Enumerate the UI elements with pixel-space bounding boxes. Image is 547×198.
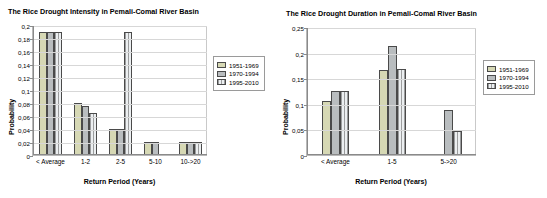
legend-swatch — [487, 66, 496, 72]
legend-swatch — [217, 62, 226, 68]
bar — [89, 113, 97, 155]
bar — [331, 91, 340, 155]
bar — [109, 129, 117, 155]
bar-group-duration — [307, 28, 476, 155]
bar — [444, 110, 453, 155]
y-axis-label-intensity: Probability — [8, 99, 15, 135]
legend-intensity: 1951-19691970-19941995-2010 — [213, 56, 265, 91]
y-axis-tick: 0,06 — [18, 114, 30, 121]
y-axis-tick: 0,12 — [18, 75, 30, 82]
y-axis-label-duration: Probability — [282, 99, 289, 135]
y-axis-tick: 0,2 — [295, 50, 304, 57]
gridline — [33, 143, 207, 144]
legend-item: 1970-1994 — [217, 70, 261, 77]
gridline — [307, 28, 476, 29]
legend-item: 1970-1994 — [487, 74, 531, 81]
x-axis-tick: < Average — [36, 158, 65, 165]
bar — [379, 70, 388, 156]
legend-swatch — [217, 71, 226, 77]
legend-duration: 1951-19691970-19941995-2010 — [483, 60, 535, 95]
bar — [340, 91, 349, 155]
y-axis-tick-mark — [30, 156, 33, 157]
bar — [47, 32, 55, 156]
chart-title-intensity: The Rice Drought Intensity in Pemali-Com… — [8, 7, 199, 16]
legend-item: 1995-2010 — [487, 83, 531, 90]
legend-label: 1970-1994 — [499, 74, 529, 81]
legend-label: 1970-1994 — [229, 70, 259, 77]
gridline — [33, 117, 207, 118]
y-axis-tick: 0,1 — [295, 101, 304, 108]
x-axis-tick: 5-10 — [149, 158, 162, 165]
y-axis-tick-mark — [304, 156, 307, 157]
legend-label: 1951-1969 — [229, 62, 259, 69]
x-axis-tick: 1-2 — [81, 158, 90, 165]
x-axis-line — [307, 154, 476, 155]
bar — [74, 103, 82, 155]
chart-title-duration: The Rice Drought Duration in Pemali-Coma… — [286, 9, 477, 18]
legend-swatch — [487, 83, 496, 89]
x-axis-tick: < Average — [321, 158, 350, 165]
gridline — [307, 79, 476, 80]
y-axis-tick: 0,18 — [18, 36, 30, 43]
legend-item: 1995-2010 — [217, 79, 261, 86]
bar — [117, 129, 125, 155]
y-axis-tick: 0,08 — [18, 101, 30, 108]
gridline — [33, 26, 207, 27]
legend-swatch — [487, 75, 496, 81]
gridline — [307, 130, 476, 131]
gridline — [307, 105, 476, 106]
gridline — [307, 54, 476, 55]
y-axis-line — [307, 28, 308, 155]
y-axis-tick: 0,1 — [21, 88, 30, 95]
legend-label: 1951-1969 — [499, 66, 529, 73]
y-axis-tick: 0,15 — [292, 76, 304, 83]
x-axis-tick: 1-5 — [387, 158, 396, 165]
y-axis-tick: 0,05 — [292, 127, 304, 134]
bar — [124, 32, 132, 156]
chart-panel-duration: The Rice Drought Duration in Pemali-Coma… — [274, 0, 547, 198]
gridline — [33, 91, 207, 92]
legend-label: 1995-2010 — [499, 83, 529, 90]
legend-item: 1951-1969 — [217, 62, 261, 69]
bar — [388, 46, 397, 155]
bar — [397, 69, 406, 155]
gridline — [33, 39, 207, 40]
y-axis-tick: 0,02 — [18, 140, 30, 147]
bar — [453, 131, 462, 155]
x-axis-tick: 10->20 — [180, 158, 200, 165]
gridline — [33, 78, 207, 79]
x-axis-tick: 5->20 — [440, 158, 457, 165]
chart-panel-intensity: The Rice Drought Intensity in Pemali-Com… — [0, 0, 272, 198]
y-axis-tick: 0,04 — [18, 127, 30, 134]
y-axis-tick: 0,25 — [292, 25, 304, 32]
x-axis-line — [33, 154, 207, 155]
legend-item: 1951-1969 — [487, 66, 531, 73]
y-axis-tick: 0,14 — [18, 62, 30, 69]
plot-area-duration: 0,250,20,150,10,050< Average1-55->20 — [306, 28, 476, 156]
bar — [322, 101, 331, 155]
gridline — [33, 104, 207, 105]
figure-container: The Rice Drought Intensity in Pemali-Com… — [0, 0, 547, 198]
x-axis-label-intensity: Return Period (Years) — [32, 178, 207, 185]
gridline — [33, 65, 207, 66]
legend-swatch — [217, 79, 226, 85]
y-axis-line — [33, 26, 34, 155]
plot-area-intensity: 0,20,180,160,140,120,10,080,060,040,020<… — [32, 26, 207, 156]
y-axis-tick: 0,2 — [21, 23, 30, 30]
x-axis-tick: 2-5 — [116, 158, 125, 165]
legend-label: 1995-2010 — [229, 79, 259, 86]
bar — [39, 32, 47, 156]
x-axis-label-duration: Return Period (Years) — [306, 178, 476, 185]
bar — [54, 32, 62, 156]
gridline — [33, 130, 207, 131]
gridline — [33, 52, 207, 53]
y-axis-tick: 0,16 — [18, 49, 30, 56]
